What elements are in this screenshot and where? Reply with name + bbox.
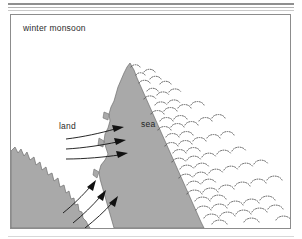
label-sea: sea bbox=[141, 119, 155, 129]
label-land: land bbox=[59, 121, 76, 131]
figure-page: winter monsoon land sea bbox=[0, 0, 302, 239]
label-winter-monsoon: winter monsoon bbox=[23, 23, 86, 33]
top-rule-thin bbox=[8, 10, 294, 11]
figure-frame: winter monsoon land sea bbox=[10, 14, 291, 229]
top-rule-medium bbox=[8, 7, 294, 8]
bottom-rule bbox=[8, 236, 294, 237]
top-rule-thick bbox=[8, 3, 294, 5]
